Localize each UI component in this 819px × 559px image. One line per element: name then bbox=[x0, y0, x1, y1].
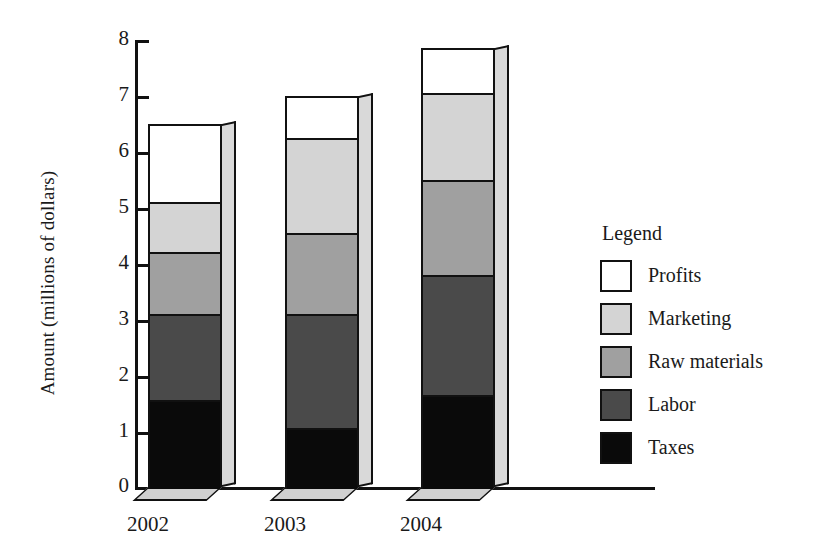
y-tick-label-8: 8 bbox=[95, 28, 129, 49]
legend-item[interactable]: Raw materials bbox=[600, 340, 810, 383]
legend-label: Raw materials bbox=[648, 350, 763, 373]
legend-swatch-taxes bbox=[600, 432, 632, 464]
legend-swatch-profits bbox=[600, 260, 632, 292]
legend-item[interactable]: Profits bbox=[600, 254, 810, 297]
bar-2004[interactable] bbox=[421, 48, 495, 487]
y-tick-6 bbox=[135, 152, 149, 155]
bar-segment-raw-materials[interactable] bbox=[423, 182, 493, 277]
y-tick-label-6: 6 bbox=[95, 140, 129, 161]
stacked-bar-chart: Amount (millions of dollars) 8 7 6 5 4 3… bbox=[0, 0, 819, 559]
legend-label: Taxes bbox=[648, 436, 694, 459]
x-tick-label-2004: 2004 bbox=[366, 512, 476, 537]
x-tick-label-2003: 2003 bbox=[230, 512, 340, 537]
legend-item[interactable]: Labor bbox=[600, 383, 810, 426]
bar-segment-profits[interactable] bbox=[287, 98, 357, 140]
y-tick-1 bbox=[135, 432, 149, 435]
y-tick-label-2: 2 bbox=[95, 364, 129, 385]
y-tick-label-0: 0 bbox=[95, 475, 129, 496]
y-tick-3 bbox=[135, 320, 149, 323]
legend-item[interactable]: Marketing bbox=[600, 297, 810, 340]
bar-bottom-face bbox=[132, 487, 222, 501]
legend-label: Labor bbox=[648, 393, 696, 416]
bar-side-face bbox=[495, 45, 509, 487]
legend-label: Profits bbox=[648, 264, 701, 287]
bar-segment-raw-materials[interactable] bbox=[287, 235, 357, 316]
legend-title: Legend bbox=[602, 222, 810, 245]
bar-segment-profits[interactable] bbox=[150, 126, 220, 204]
bar-2003[interactable] bbox=[285, 96, 359, 487]
bar-segment-taxes[interactable] bbox=[150, 402, 220, 489]
bar-segment-raw-materials[interactable] bbox=[150, 254, 220, 315]
legend-swatch-raw-materials bbox=[600, 346, 632, 378]
bar-bottom-face bbox=[405, 487, 495, 501]
bar-segment-profits[interactable] bbox=[423, 50, 493, 95]
y-axis-label: Amount (millions of dollars) bbox=[37, 83, 59, 483]
y-tick-label-1: 1 bbox=[95, 420, 129, 441]
bar-segment-marketing[interactable] bbox=[287, 140, 357, 235]
bar-segment-labor[interactable] bbox=[150, 316, 220, 403]
y-tick-label-5: 5 bbox=[95, 196, 129, 217]
bar-stack-2002 bbox=[148, 124, 222, 487]
legend-swatch-labor bbox=[600, 389, 632, 421]
legend-rows: ProfitsMarketingRaw materialsLaborTaxes bbox=[600, 254, 810, 469]
legend-item[interactable]: Taxes bbox=[600, 426, 810, 469]
y-tick-8 bbox=[135, 40, 149, 43]
bar-segment-labor[interactable] bbox=[423, 277, 493, 397]
legend-swatch-marketing bbox=[600, 303, 632, 335]
bar-segment-taxes[interactable] bbox=[423, 397, 493, 489]
y-tick-label-4: 4 bbox=[95, 252, 129, 273]
bar-segment-taxes[interactable] bbox=[287, 430, 357, 489]
bar-stack-2004 bbox=[421, 48, 495, 487]
bar-side-face bbox=[222, 121, 236, 487]
legend-label: Marketing bbox=[648, 307, 731, 330]
y-tick-4 bbox=[135, 264, 149, 267]
bar-segment-marketing[interactable] bbox=[150, 204, 220, 254]
bar-segment-marketing[interactable] bbox=[423, 95, 493, 182]
x-tick-label-2002: 2002 bbox=[93, 512, 203, 537]
bar-segment-labor[interactable] bbox=[287, 316, 357, 431]
bar-2002[interactable] bbox=[148, 124, 222, 487]
y-tick-label-7: 7 bbox=[95, 84, 129, 105]
y-tick-2 bbox=[135, 376, 149, 379]
bar-side-face bbox=[359, 93, 373, 487]
y-tick-label-3: 3 bbox=[95, 308, 129, 329]
legend: Legend ProfitsMarketingRaw materialsLabo… bbox=[600, 222, 810, 469]
y-tick-5 bbox=[135, 208, 149, 211]
bar-bottom-face bbox=[269, 487, 359, 501]
y-tick-7 bbox=[135, 96, 149, 99]
bar-stack-2003 bbox=[285, 96, 359, 487]
